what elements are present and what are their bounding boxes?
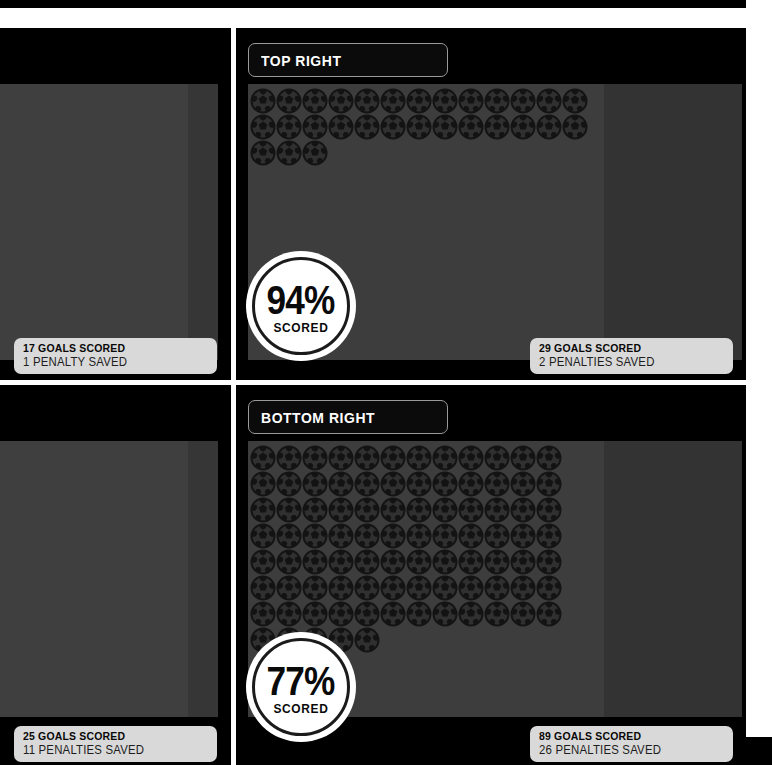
soccer-ball-icon xyxy=(406,471,432,497)
soccer-ball-icon xyxy=(250,575,276,601)
soccer-ball-icon xyxy=(406,497,432,523)
soccer-ball-icon xyxy=(250,114,276,140)
soccer-ball-icon xyxy=(484,601,510,627)
soccer-ball-icon xyxy=(432,88,458,114)
soccer-ball-icon xyxy=(328,549,354,575)
soccer-ball-icon xyxy=(354,523,380,549)
soccer-ball-icon xyxy=(354,575,380,601)
soccer-ball-icon xyxy=(562,88,588,114)
soccer-ball-icon xyxy=(510,497,536,523)
soccer-ball-icon xyxy=(302,497,328,523)
stat-pill-bottom-left[interactable]: 25 GOALS SCORED 11 PENALTIES SAVED xyxy=(14,726,217,762)
goals-scored-label: 17 GOALS SCORED xyxy=(23,342,199,355)
soccer-ball-icon xyxy=(250,445,276,471)
soccer-ball-icon xyxy=(562,114,588,140)
soccer-ball-icon xyxy=(250,140,276,166)
quadrant-bottom-left[interactable]: 25 GOALS SCORED 11 PENALTIES SAVED xyxy=(0,385,231,765)
soccer-ball-icon xyxy=(510,523,536,549)
soccer-ball-icon xyxy=(276,88,302,114)
goals-scored-label: 29 GOALS SCORED xyxy=(539,342,715,355)
badge-percent: 77% xyxy=(267,663,335,699)
soccer-ball-icon xyxy=(510,601,536,627)
soccer-ball-icon xyxy=(380,88,406,114)
soccer-ball-icon xyxy=(380,575,406,601)
soccer-ball-icon xyxy=(432,114,458,140)
soccer-ball-icon xyxy=(276,445,302,471)
soccer-ball-icon xyxy=(510,114,536,140)
ball-grid-bottom-right xyxy=(250,445,562,653)
pitch-top-left xyxy=(0,84,218,360)
right-white-margin xyxy=(746,0,772,737)
soccer-ball-icon xyxy=(536,601,562,627)
soccer-ball-icon xyxy=(250,549,276,575)
soccer-ball-icon xyxy=(432,601,458,627)
soccer-ball-icon xyxy=(510,471,536,497)
top-black-strip xyxy=(0,0,772,8)
soccer-ball-icon xyxy=(250,471,276,497)
soccer-ball-icon xyxy=(510,445,536,471)
divider-vertical xyxy=(231,28,236,765)
soccer-ball-icon xyxy=(328,523,354,549)
soccer-ball-icon xyxy=(432,471,458,497)
quadrant-top-left[interactable]: 17 GOALS SCORED 1 PENALTY SAVED xyxy=(0,28,231,380)
soccer-ball-icon xyxy=(458,523,484,549)
goals-scored-label: 89 GOALS SCORED xyxy=(539,730,715,743)
soccer-ball-icon xyxy=(406,114,432,140)
badge-top-right[interactable]: 94% SCORED xyxy=(246,251,356,361)
badge-percent: 94% xyxy=(267,282,335,318)
soccer-ball-icon xyxy=(458,88,484,114)
soccer-ball-icon xyxy=(354,88,380,114)
penalties-saved-label: 2 PENALTIES SAVED xyxy=(539,355,715,369)
soccer-ball-icon xyxy=(458,601,484,627)
badge-bottom-right[interactable]: 77% SCORED xyxy=(246,632,356,742)
goals-scored-label: 25 GOALS SCORED xyxy=(23,730,199,743)
soccer-ball-icon xyxy=(276,601,302,627)
soccer-ball-icon xyxy=(380,601,406,627)
soccer-ball-icon xyxy=(510,549,536,575)
soccer-ball-icon xyxy=(536,575,562,601)
title-pill-top-right[interactable]: TOP RIGHT xyxy=(248,43,448,77)
soccer-ball-icon xyxy=(302,88,328,114)
soccer-ball-icon xyxy=(484,445,510,471)
penalties-saved-label: 26 PENALTIES SAVED xyxy=(539,743,715,757)
stat-pill-top-left[interactable]: 17 GOALS SCORED 1 PENALTY SAVED xyxy=(14,338,217,374)
soccer-ball-icon xyxy=(432,549,458,575)
stat-pill-top-right[interactable]: 29 GOALS SCORED 2 PENALTIES SAVED xyxy=(530,338,733,374)
soccer-ball-icon xyxy=(380,549,406,575)
soccer-ball-icon xyxy=(328,471,354,497)
soccer-ball-icon xyxy=(250,497,276,523)
soccer-ball-icon xyxy=(302,114,328,140)
soccer-ball-icon xyxy=(380,445,406,471)
soccer-ball-icon xyxy=(276,140,302,166)
divider-horizontal xyxy=(0,380,746,385)
soccer-ball-icon xyxy=(484,114,510,140)
soccer-ball-icon xyxy=(276,471,302,497)
soccer-ball-icon xyxy=(328,497,354,523)
soccer-ball-icon xyxy=(354,471,380,497)
soccer-ball-icon xyxy=(536,549,562,575)
soccer-ball-icon xyxy=(484,497,510,523)
soccer-ball-icon xyxy=(302,549,328,575)
soccer-ball-icon xyxy=(354,114,380,140)
soccer-ball-icon xyxy=(380,523,406,549)
soccer-ball-icon xyxy=(406,445,432,471)
soccer-ball-icon xyxy=(302,575,328,601)
soccer-ball-icon xyxy=(276,497,302,523)
soccer-ball-icon xyxy=(328,88,354,114)
soccer-ball-icon xyxy=(458,471,484,497)
soccer-ball-icon xyxy=(458,114,484,140)
soccer-ball-icon xyxy=(432,445,458,471)
penalties-saved-label: 11 PENALTIES SAVED xyxy=(23,743,199,757)
soccer-ball-icon xyxy=(328,575,354,601)
soccer-ball-icon xyxy=(484,523,510,549)
soccer-ball-icon xyxy=(302,601,328,627)
soccer-ball-icon xyxy=(276,523,302,549)
soccer-ball-icon xyxy=(328,601,354,627)
soccer-ball-icon xyxy=(536,88,562,114)
soccer-ball-icon xyxy=(536,114,562,140)
soccer-ball-icon xyxy=(536,471,562,497)
quadrant-title: BOTTOM RIGHT xyxy=(261,410,375,425)
soccer-ball-icon xyxy=(484,549,510,575)
stat-pill-bottom-right[interactable]: 89 GOALS SCORED 26 PENALTIES SAVED xyxy=(530,726,733,762)
title-pill-bottom-right[interactable]: BOTTOM RIGHT xyxy=(248,400,448,434)
